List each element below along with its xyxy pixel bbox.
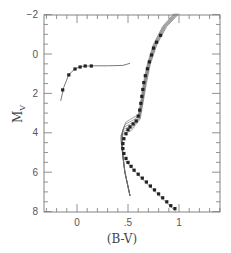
y-axis-label: MV xyxy=(11,105,27,123)
fiducial-data-point xyxy=(169,204,172,207)
fiducial-data-point xyxy=(148,60,151,63)
y-label-subscript: V xyxy=(18,105,27,112)
hb-data-point xyxy=(90,64,93,67)
cmd-chart: 0.51−202468 (B-V) MV xyxy=(0,0,231,253)
horizontal-branch-model-line xyxy=(61,63,130,101)
fiducial-data-point xyxy=(139,102,142,105)
fiducial-data-point xyxy=(159,34,162,37)
hb-data-point xyxy=(73,67,76,70)
fiducial-data-point xyxy=(165,200,168,203)
fiducial-data-point xyxy=(157,192,160,195)
hb-data-point xyxy=(61,88,64,91)
y-tick-label: 6 xyxy=(32,167,38,178)
fiducial-data-point xyxy=(137,115,140,118)
y-tick-label: 4 xyxy=(32,127,38,138)
fiducial-data-point xyxy=(144,74,147,77)
fiducial-data-point xyxy=(173,207,176,210)
fiducial-data-point xyxy=(145,180,148,183)
fiducial-data-point xyxy=(137,173,140,176)
fiducial-data-point xyxy=(142,81,145,84)
isochrone-line xyxy=(121,14,179,196)
fiducial-data-point xyxy=(161,196,164,199)
x-tick-label: .5 xyxy=(124,217,133,228)
y-label-main: M xyxy=(11,111,25,123)
fiducial-data-point xyxy=(146,67,149,70)
fiducial-data-point xyxy=(132,122,135,125)
isochrone-line xyxy=(121,14,178,196)
axis-ticks xyxy=(44,15,220,212)
y-tick-label: 8 xyxy=(32,206,38,217)
x-axis-label: (B-V) xyxy=(107,232,137,246)
x-tick-label: 1 xyxy=(176,217,182,228)
fiducial-data-point xyxy=(140,95,143,98)
isochrone-line xyxy=(122,14,176,196)
fiducial-data-point xyxy=(121,147,124,150)
y-tick-label: 0 xyxy=(32,49,38,60)
fiducial-data-point xyxy=(133,169,136,172)
fiducial-data-point xyxy=(126,128,129,131)
fiducial-data-point xyxy=(121,142,124,145)
data-points xyxy=(61,34,176,211)
fiducial-data-point xyxy=(124,132,127,135)
fiducial-data-point xyxy=(152,47,155,50)
fiducial-data-point xyxy=(128,125,131,128)
isochrone-line xyxy=(122,14,173,196)
plot-frame xyxy=(44,15,220,212)
fiducial-data-point xyxy=(155,41,158,44)
isochrone-line xyxy=(122,14,177,196)
fiducial-data-point xyxy=(124,157,127,160)
hb-data-point xyxy=(79,65,82,68)
fiducial-data-point xyxy=(153,188,156,191)
fiducial-data-point xyxy=(141,88,144,91)
isochrone-line xyxy=(122,14,175,196)
fiducial-data-point xyxy=(149,184,152,187)
hb-data-point xyxy=(67,73,70,76)
fiducial-data-point xyxy=(138,109,141,112)
y-tick-label: 2 xyxy=(32,88,38,99)
fiducial-data-point xyxy=(150,53,153,56)
fiducial-data-point xyxy=(122,137,125,140)
fiducial-data-point xyxy=(126,161,129,164)
fiducial-data-point xyxy=(122,152,125,155)
x-tick-label: 0 xyxy=(74,217,80,228)
hb-data-point xyxy=(84,64,87,67)
fiducial-data-point xyxy=(130,165,133,168)
y-tick-label: −2 xyxy=(27,9,39,20)
fiducial-data-point xyxy=(135,119,138,122)
isochrone-bundle xyxy=(121,14,179,212)
fiducial-data-point xyxy=(141,177,144,180)
